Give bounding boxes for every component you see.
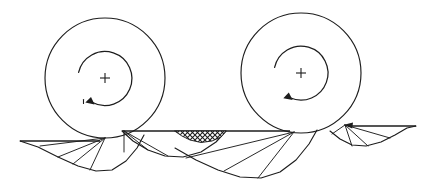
- left-wheel-center-cross: [100, 73, 110, 83]
- right-wheel-group: [241, 13, 361, 133]
- hatched-wedge-group: [170, 126, 232, 148]
- cycloid-arc-right-outer: [330, 126, 416, 146]
- right-wheel-center-cross: [296, 68, 306, 78]
- crosshatch-fill: [170, 126, 232, 148]
- radial-spoke: [332, 125, 345, 134]
- radial-spoke: [124, 131, 168, 156]
- rolling-wheels-diagram: [0, 0, 425, 183]
- diagram-canvas: [0, 0, 425, 183]
- radial-spoke: [224, 132, 294, 171]
- radial-spoke: [73, 138, 105, 164]
- left-wheel-group: [45, 18, 165, 138]
